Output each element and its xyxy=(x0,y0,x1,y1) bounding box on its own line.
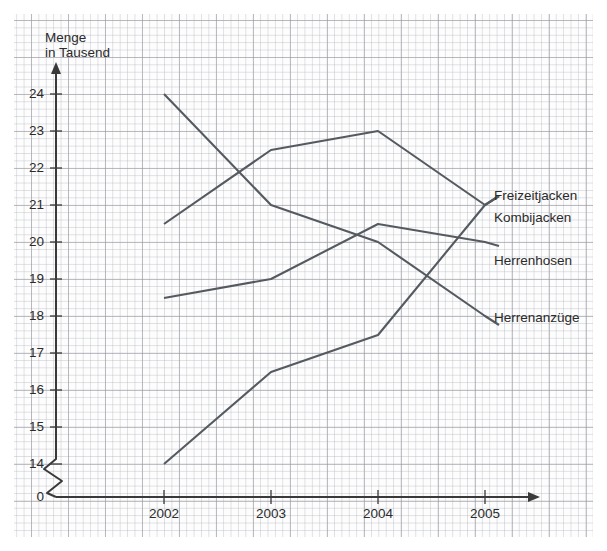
chart-screenshot: Menge in Tausend 24 23 22 21 20 19 18 17… xyxy=(0,0,607,551)
line-chart-plot xyxy=(0,0,607,551)
x-axis xyxy=(56,490,540,504)
y-tick-label-20: 20 xyxy=(14,234,44,249)
y-tick-label-19: 19 xyxy=(14,271,44,286)
x-tick-label-2005: 2005 xyxy=(455,506,515,521)
y-tick-label-23: 23 xyxy=(14,123,44,138)
series-label-kombijacken: Kombijacken xyxy=(494,210,571,225)
y-tick-label-16: 16 xyxy=(14,382,44,397)
x-tick-label-2004: 2004 xyxy=(348,506,408,521)
series-label-herrenhosen: Herrenhosen xyxy=(494,253,572,268)
series-label-herrenanzuege: Herrenanzüge xyxy=(494,310,580,325)
y-tick-label-21: 21 xyxy=(14,197,44,212)
x-axis-arrowhead xyxy=(528,492,540,502)
x-tick-label-2003: 2003 xyxy=(241,506,301,521)
series-line-herrenhosen xyxy=(164,224,499,298)
y-axis-title-line2: in Tausend xyxy=(45,45,110,60)
y-axis-title: Menge in Tausend xyxy=(45,30,110,60)
y-tick-label-15: 15 xyxy=(14,419,44,434)
y-tick-label-18: 18 xyxy=(14,308,44,323)
series-label-freizeitjacken: Freizeitjacken xyxy=(494,188,577,203)
y-axis-arrowhead xyxy=(51,62,61,74)
axis-break-zigzag xyxy=(44,445,62,497)
x-tick-label-2002: 2002 xyxy=(134,506,194,521)
series-line-freizeitjacken xyxy=(164,94,499,325)
y-tick-label-24: 24 xyxy=(14,86,44,101)
y-tick-label-0: 0 xyxy=(14,489,44,504)
y-tick-label-14: 14 xyxy=(14,456,44,471)
y-tick-label-22: 22 xyxy=(14,160,44,175)
y-tick-label-17: 17 xyxy=(14,345,44,360)
y-axis-title-line1: Menge xyxy=(45,30,110,45)
